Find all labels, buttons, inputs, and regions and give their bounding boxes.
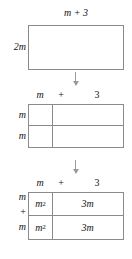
panel-3-header-term1: m bbox=[28, 178, 52, 188]
panel-2-cell-r2c1 bbox=[29, 126, 53, 147]
panel-2-cell-r1c1 bbox=[29, 105, 53, 125]
panel-3-row-label-2: m bbox=[2, 218, 26, 235]
down-arrow-icon bbox=[71, 72, 80, 86]
table-row bbox=[29, 126, 123, 147]
table-row: m2 3m bbox=[29, 193, 123, 216]
panel-3-cell-r2c1: m2 bbox=[29, 216, 53, 239]
area-model-panel-1: m + 3 2m bbox=[0, 0, 132, 84]
panel-3-header-term2: 3 bbox=[70, 178, 124, 188]
panel-3-cell-r2c2: 3m bbox=[53, 216, 122, 239]
panel-3-row-label-1: m bbox=[2, 188, 26, 205]
panel-3-cell-r2c1-base: m bbox=[35, 223, 42, 233]
panel-2-cell-r1c2 bbox=[53, 105, 122, 125]
table-row: m2 3m bbox=[29, 216, 123, 239]
panel-2-row-label-2: m bbox=[2, 125, 26, 146]
panel-3-cell-r1c1-base: m bbox=[35, 199, 42, 209]
down-arrow-icon bbox=[71, 160, 80, 174]
panel-3-cell-r1c1: m2 bbox=[29, 193, 53, 215]
table-row bbox=[29, 105, 123, 126]
panel-3-cell-r2c1-exponent: 2 bbox=[42, 224, 46, 231]
panel-3-row-label-operator: + bbox=[2, 205, 26, 218]
panel-2-header-term1: m bbox=[28, 90, 52, 100]
panel-2-row-labels: m m bbox=[2, 104, 26, 146]
arrow-head bbox=[73, 169, 79, 174]
panel-2-cell-r2c2 bbox=[53, 126, 122, 147]
panel-3-header-operator: + bbox=[52, 178, 70, 188]
panel-3-cell-r1c1-exponent: 2 bbox=[42, 201, 46, 208]
panel-1-left-label: 2m bbox=[4, 42, 26, 52]
panel-2-row-label-1: m bbox=[2, 104, 26, 125]
panel-3-cell-r1c2: 3m bbox=[53, 193, 122, 215]
panel-2-header-operator: + bbox=[52, 90, 70, 100]
panel-2-header-term2: 3 bbox=[70, 90, 124, 100]
panel-1-rectangle bbox=[28, 25, 124, 70]
panel-3-row-labels: m + m bbox=[2, 188, 26, 235]
area-model-panel-2: m + 3 m m bbox=[0, 88, 132, 163]
arrow-head bbox=[73, 81, 79, 86]
panel-1-top-label: m + 3 bbox=[28, 8, 124, 18]
panel-2-column-header: m + 3 bbox=[0, 90, 132, 102]
panel-2-grid bbox=[28, 104, 124, 148]
panel-3-grid: m2 3m m2 3m bbox=[28, 192, 124, 240]
area-model-panel-3: m + 3 m + m m2 3m m2 3m bbox=[0, 176, 132, 259]
